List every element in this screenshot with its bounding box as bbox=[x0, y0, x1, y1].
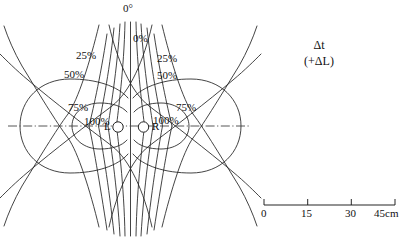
contour-label-25pct-left: 25% bbox=[76, 50, 96, 61]
scale-bar-group bbox=[264, 199, 395, 205]
contour-inner-left-4 bbox=[89, 34, 107, 230]
contour-label-75pct-left: 75% bbox=[68, 102, 88, 113]
quantity-label-delta-t: Δt bbox=[296, 39, 342, 51]
contour-label-25pct-right: 25% bbox=[157, 53, 177, 64]
scale-tick-label-45cm: 45cm bbox=[374, 208, 398, 219]
contour-label-50pct-left: 50% bbox=[64, 69, 84, 80]
contour-label-0pct: 0% bbox=[133, 33, 148, 44]
source-label-R: R bbox=[152, 121, 159, 132]
contour-label-75pct-right: 75% bbox=[176, 102, 196, 113]
contour-field-svg bbox=[0, 0, 408, 242]
contour-label-50pct-right: 50% bbox=[157, 70, 177, 81]
source-marker-R bbox=[138, 122, 148, 132]
contour-50pct-right-lower bbox=[109, 54, 261, 227]
source-label-L: L bbox=[104, 121, 111, 132]
scale-tick-label-30: 30 bbox=[345, 208, 356, 219]
source-marker-L bbox=[113, 122, 123, 132]
quantity-sublabel-delta-L: (+ΔL) bbox=[290, 55, 348, 67]
scale-tick-label-15: 15 bbox=[301, 208, 312, 219]
figure-root: 0° 0% 25% 25% 50% 50% 75% 75% 100% 100% … bbox=[0, 0, 408, 242]
angle-label-0deg: 0° bbox=[123, 3, 133, 14]
scale-tick-label-0: 0 bbox=[261, 208, 267, 219]
